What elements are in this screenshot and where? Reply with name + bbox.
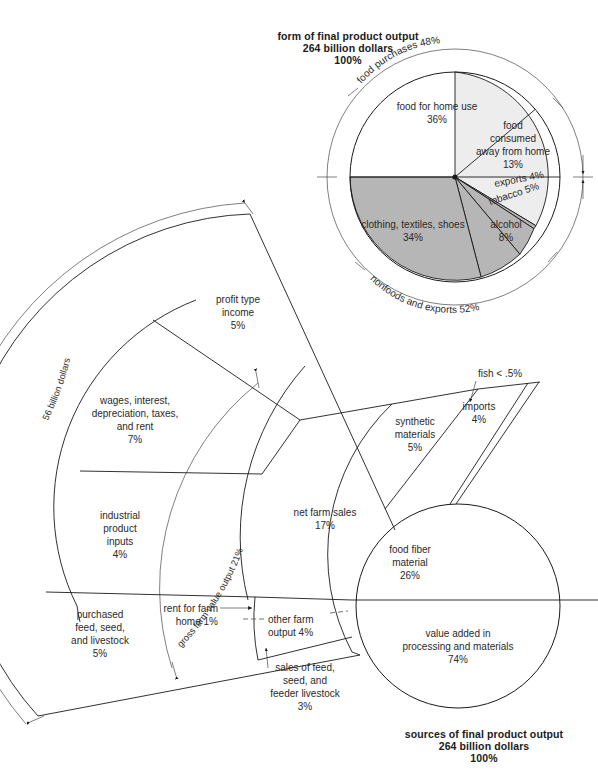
fish-leader [470, 381, 476, 402]
svg-text:inputs: inputs [107, 536, 134, 547]
svg-text:industrial: industrial [100, 510, 140, 521]
divider-salesfeed-edge [352, 652, 360, 655]
svg-text:processing and materials: processing and materials [402, 641, 513, 652]
svg-text:17%: 17% [315, 520, 335, 531]
svg-text:8%: 8% [499, 232, 514, 243]
fan-scale-arrow-top [245, 203, 253, 214]
big-circle-label-food-fiber: food fiber material 26% [389, 544, 431, 581]
divider-profit-wages [153, 320, 300, 420]
diagram-svg: food purchases 48% nonfoods and exports … [0, 0, 598, 770]
svg-text:purchased: purchased [77, 609, 124, 620]
fan-salesfeed-arc [254, 597, 258, 660]
svg-text:26%: 26% [400, 570, 420, 581]
fan-scale-label: 56 billion dollars [40, 357, 72, 422]
svg-text:profit type: profit type [216, 294, 260, 305]
fan-gross-arrow-top [256, 372, 259, 388]
svg-text:seed, and: seed, and [283, 675, 327, 686]
fan-scale-label-text: 56 billion dollars [40, 357, 72, 422]
divider-netfarm-otherfarm [255, 597, 352, 600]
pie-chart: food purchases 48% nonfoods and exports … [317, 34, 593, 315]
pie-arc-label-food-purchases: food purchases 48% [354, 34, 440, 85]
svg-text:material: material [392, 557, 428, 568]
divider-midcell [262, 420, 300, 474]
svg-text:sales of feed,: sales of feed, [275, 662, 334, 673]
fan-gross-arc-label-text: gross farm value output 21% [175, 546, 245, 649]
fan-label-sales-of-feed: sales of feed, seed, and feeder livestoc… [270, 662, 340, 712]
other-farm-dash-right [330, 611, 348, 613]
svg-text:and rent: and rent [117, 421, 154, 432]
divider-wages-industrial [80, 471, 262, 474]
fan-label-profit-type-income: profit type income 5% [216, 294, 260, 331]
arc-top-imports-fish [478, 382, 540, 389]
svg-text:food: food [503, 120, 522, 131]
fan-scale-arrow-bottom [30, 716, 44, 722]
svg-text:4%: 4% [113, 549, 128, 560]
big-circle-label-value-added: value added in processing and materials … [402, 628, 513, 665]
big-circle-outline [356, 504, 560, 708]
fan-label-other-farm-output: other farm output 4% [268, 614, 314, 638]
svg-text:feeder livestock: feeder livestock [270, 688, 340, 699]
fan-label-fish: fish < .5% [478, 368, 522, 379]
fan-label-net-farm-sales: net farm sales 17% [294, 507, 357, 531]
pie-ring-upper-left [327, 49, 455, 177]
leader-foodpurch-right [553, 98, 563, 108]
fan-label-wages: wages, interest, depreciation, taxes, an… [92, 395, 179, 445]
fan-gross-arc-label: gross farm value output 21% [175, 546, 245, 649]
fan-gross-arrow-bottom [172, 662, 176, 676]
svg-text:income: income [222, 307, 255, 318]
svg-text:4%: 4% [472, 414, 487, 425]
svg-text:value added in: value added in [425, 628, 490, 639]
big-circle-chart: food fiber material 26% value added in p… [356, 504, 560, 708]
svg-text:output 4%: output 4% [268, 627, 313, 638]
pie-arc-label-food-purchases-text: food purchases 48% [354, 34, 440, 85]
fan-label-synthetic-materials: synthetic materials 5% [395, 416, 436, 453]
infographic-canvas: form of final product output 264 billion… [0, 0, 598, 770]
svg-text:away from home: away from home [476, 146, 550, 157]
svg-text:74%: 74% [448, 654, 468, 665]
svg-text:5%: 5% [408, 442, 423, 453]
svg-text:feed, seed,: feed, seed, [75, 622, 124, 633]
fan-label-purchased-feed: purchased feed, seed, and livestock 5% [71, 609, 130, 659]
svg-text:7%: 7% [128, 434, 143, 445]
svg-text:36%: 36% [427, 114, 447, 125]
divider-profit-netfarm [300, 404, 392, 420]
fan-inner-arc [328, 404, 392, 652]
leader-nonfoods-right [548, 252, 557, 262]
svg-text:other farm: other farm [268, 614, 314, 625]
fan-band-arc-upper [54, 300, 196, 606]
svg-text:5%: 5% [231, 320, 246, 331]
svg-text:product: product [103, 523, 137, 534]
divider-salesfeed-top [258, 637, 352, 660]
svg-text:3%: 3% [298, 701, 313, 712]
svg-text:home 1%: home 1% [176, 616, 218, 627]
pie-center-dot [452, 174, 457, 179]
svg-text:alcohol: alcohol [490, 219, 522, 230]
svg-text:clothing, textiles, shoes: clothing, textiles, shoes [361, 219, 464, 230]
svg-text:food fiber: food fiber [389, 544, 431, 555]
svg-text:imports: imports [463, 401, 496, 412]
svg-text:13%: 13% [503, 159, 523, 170]
fan-edge-top [250, 214, 395, 530]
svg-text:synthetic: synthetic [395, 416, 434, 427]
svg-text:and livestock: and livestock [71, 635, 130, 646]
svg-text:materials: materials [395, 429, 436, 440]
svg-text:depreciation, taxes,: depreciation, taxes, [92, 408, 179, 419]
svg-text:food for home use: food for home use [397, 101, 478, 112]
svg-text:5%: 5% [93, 648, 108, 659]
fan-label-imports: imports 4% [463, 401, 496, 425]
svg-text:rent for farm: rent for farm [164, 603, 218, 614]
svg-text:consumed: consumed [490, 133, 536, 144]
svg-text:wages, interest,: wages, interest, [99, 395, 170, 406]
svg-text:net farm sales: net farm sales [294, 507, 357, 518]
svg-text:34%: 34% [403, 232, 423, 243]
fan-label-industrial-product-inputs: industrial product inputs 4% [100, 510, 140, 560]
